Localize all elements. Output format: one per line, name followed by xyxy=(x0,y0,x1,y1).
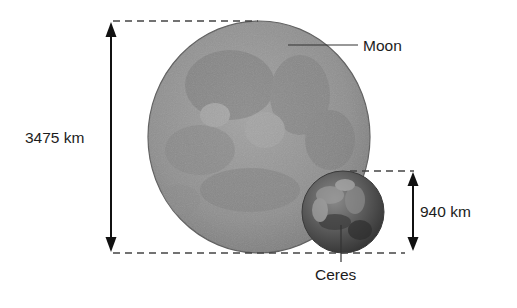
moon-label: Moon xyxy=(363,38,402,54)
ceres-label: Ceres xyxy=(315,267,356,283)
ceres-diameter-arrow xyxy=(408,172,419,251)
ceres-diameter-label: 940 km xyxy=(420,204,471,220)
moon-diameter-label: 3475 km xyxy=(25,130,84,146)
moon-diameter-arrow xyxy=(106,22,117,252)
ceres-body xyxy=(302,171,384,253)
diagram-canvas xyxy=(0,0,517,308)
